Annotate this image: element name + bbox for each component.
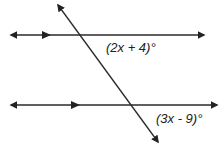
bottom-parallel-line (11, 101, 217, 109)
top-angle-label: (2x + 4)° (106, 40, 156, 55)
bottom-angle-label: (3x - 9)° (156, 111, 202, 126)
parallel-mark-icon (71, 101, 80, 109)
top-parallel-line (11, 31, 204, 39)
transversal-line (58, 5, 158, 142)
parallel-mark-icon (42, 31, 51, 39)
lines-figure (0, 0, 219, 155)
diagram: (2x + 4)° (3x - 9)° (0, 0, 219, 155)
